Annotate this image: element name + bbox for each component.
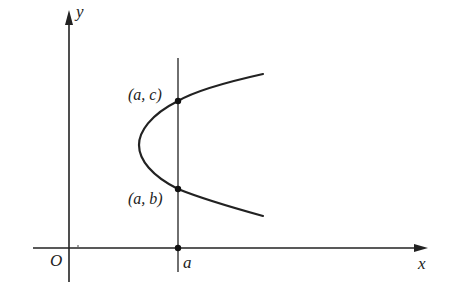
point-a-b bbox=[175, 186, 181, 192]
y-axis-label: y bbox=[76, 3, 84, 20]
point-a-on-x-axis bbox=[175, 245, 181, 251]
diagram-canvas bbox=[0, 0, 450, 293]
parabola-diagram: y x O a (a, c) (a, b) bbox=[0, 0, 450, 293]
x-axis-arrow-icon bbox=[414, 244, 428, 252]
origin-label: O bbox=[50, 252, 62, 269]
a-axis-label: a bbox=[183, 254, 192, 271]
x-axis bbox=[33, 244, 428, 252]
y-axis bbox=[65, 10, 73, 282]
x-axis-label: x bbox=[418, 255, 426, 272]
point-a-b-label: (a, b) bbox=[128, 191, 163, 207]
point-a-c-label: (a, c) bbox=[128, 87, 162, 103]
y-axis-arrow-icon bbox=[65, 10, 73, 25]
point-a-c bbox=[175, 98, 181, 104]
